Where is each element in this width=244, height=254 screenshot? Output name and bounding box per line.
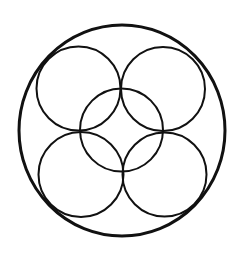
inner-circle-bottom-right bbox=[123, 133, 207, 217]
inner-circle-top-left bbox=[37, 47, 121, 131]
inner-circle-top-right bbox=[121, 47, 205, 131]
inner-circle-bottom-left bbox=[39, 132, 124, 217]
diagram-canvas bbox=[0, 0, 244, 254]
circles-diagram bbox=[0, 0, 244, 254]
